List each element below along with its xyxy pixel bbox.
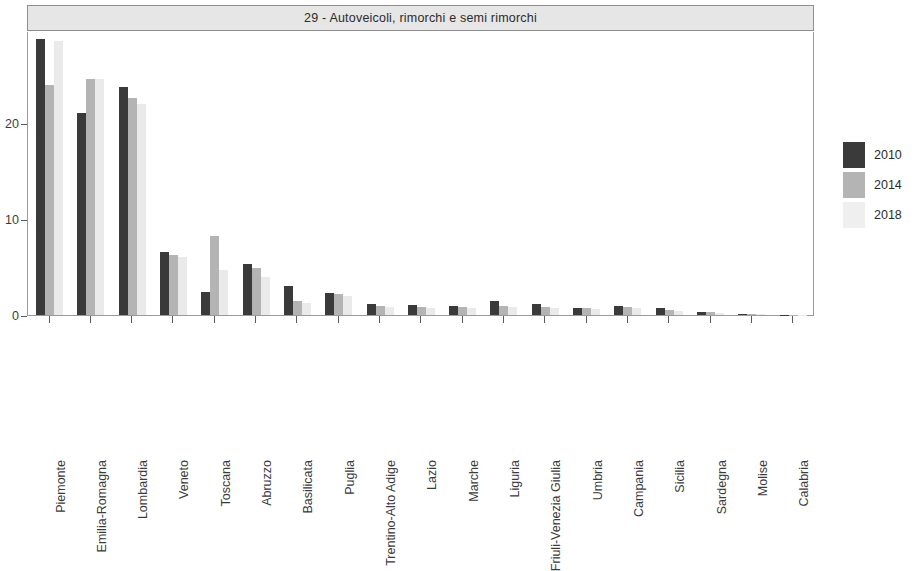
x-tick <box>710 316 711 323</box>
bar-2010 <box>490 301 499 315</box>
x-tick <box>586 316 587 323</box>
page-title: 29 - Autoveicoli, rimorchi e semi rimorc… <box>304 11 537 25</box>
bar-2014 <box>86 79 95 315</box>
legend-label: 2018 <box>874 208 902 222</box>
y-axis: 01020 <box>0 32 19 316</box>
chart-legend: 201020142018 <box>843 142 913 234</box>
bar-2010 <box>119 87 128 315</box>
bar-2018 <box>674 311 683 315</box>
bar-2018 <box>261 277 270 315</box>
x-tick <box>296 316 297 323</box>
bar-2018 <box>632 308 641 315</box>
legend-label: 2010 <box>874 148 902 162</box>
bar-2018 <box>219 270 228 315</box>
legend-swatch-icon <box>843 172 865 198</box>
bar-group <box>325 32 352 315</box>
bar-group <box>573 32 600 315</box>
x-tick <box>668 316 669 323</box>
bar-2010 <box>573 308 582 315</box>
bar-2014 <box>252 268 261 315</box>
bar-group <box>780 32 807 315</box>
plot-frame <box>27 32 814 316</box>
bar-2014 <box>376 306 385 315</box>
bar-2010 <box>408 305 417 315</box>
x-tick <box>462 316 463 323</box>
x-axis-label: Piemonte <box>54 460 68 513</box>
x-axis-label: Molise <box>756 460 770 496</box>
bar-group <box>697 32 724 315</box>
bar-group <box>119 32 146 315</box>
bar-group <box>614 32 641 315</box>
bar-2014 <box>665 310 674 315</box>
bar-2018 <box>178 257 187 315</box>
x-axis-label: Veneto <box>177 460 191 499</box>
x-tick <box>420 316 421 323</box>
legend-label: 2014 <box>874 178 902 192</box>
bar-group <box>490 32 517 315</box>
bar-2014 <box>499 306 508 315</box>
x-axis-label: Sardegna <box>715 460 729 514</box>
bar-2010 <box>36 39 45 315</box>
x-tick <box>338 316 339 323</box>
x-axis-label: Calabria <box>797 460 811 507</box>
bar-2010 <box>160 252 169 315</box>
bar-2014 <box>128 98 137 315</box>
x-tick <box>214 316 215 323</box>
bar-2014 <box>45 85 54 315</box>
bar-2014 <box>541 307 550 315</box>
bar-group <box>284 32 311 315</box>
bar-2014 <box>334 294 343 315</box>
x-axis-ticks <box>27 316 814 324</box>
bar-group <box>243 32 270 315</box>
bar-2014 <box>623 307 632 315</box>
x-axis-label: Trentino-Alto Adige <box>384 460 398 566</box>
bar-2018 <box>302 303 311 315</box>
bar-2018 <box>95 79 104 315</box>
x-axis-label: Toscana <box>219 460 233 507</box>
y-axis-label: 0 <box>12 309 19 323</box>
x-axis-label: Emilia-Romagna <box>95 460 109 552</box>
x-tick <box>751 316 752 323</box>
bar-2010 <box>201 292 210 315</box>
bar-2014 <box>582 308 591 315</box>
bar-2018 <box>385 307 394 315</box>
bar-2018 <box>508 307 517 315</box>
x-axis-label: Basilicata <box>301 460 315 514</box>
x-tick <box>627 316 628 323</box>
bar-2010 <box>656 308 665 315</box>
x-axis-label: Campania <box>632 460 646 517</box>
x-axis-label: Puglia <box>343 460 357 495</box>
x-tick <box>379 316 380 323</box>
legend-swatch-icon <box>843 142 865 168</box>
bar-2018 <box>756 314 765 315</box>
bar-group <box>738 32 765 315</box>
bar-group <box>77 32 104 315</box>
bar-2014 <box>417 307 426 315</box>
bar-2010 <box>532 304 541 316</box>
chart-title-bar: 29 - Autoveicoli, rimorchi e semi rimorc… <box>27 5 814 31</box>
bar-group <box>449 32 476 315</box>
x-tick <box>172 316 173 323</box>
bar-group <box>367 32 394 315</box>
bar-group <box>36 32 63 315</box>
legend-swatch-icon <box>843 202 865 228</box>
bar-2014 <box>210 236 219 315</box>
x-tick <box>503 316 504 323</box>
bar-2010 <box>697 312 706 315</box>
bar-2018 <box>137 104 146 315</box>
bar-group <box>201 32 228 315</box>
x-axis-label: Marche <box>467 460 481 502</box>
bar-2018 <box>343 296 352 315</box>
x-axis-label: Friuli-Venezia Giulia <box>549 460 563 571</box>
x-axis-label: Lombardia <box>136 460 150 519</box>
x-tick <box>544 316 545 323</box>
bar-2018 <box>715 313 724 315</box>
plot-area <box>28 32 813 315</box>
bar-2010 <box>614 306 623 315</box>
x-axis-labels: PiemonteEmilia-RomagnaLombardiaVenetoTos… <box>27 326 814 466</box>
legend-item-2014: 2014 <box>843 172 902 198</box>
x-tick <box>49 316 50 323</box>
bar-2014 <box>169 255 178 315</box>
bar-group <box>408 32 435 315</box>
